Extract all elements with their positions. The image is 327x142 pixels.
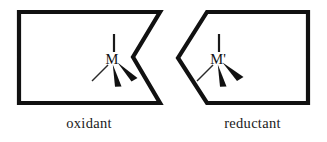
reductant-caption: reductant bbox=[178, 115, 327, 132]
oxidant-caption: oxidant bbox=[0, 115, 178, 132]
figure-root: M M' oxidant reductant bbox=[0, 0, 327, 142]
reductant-atom-label: M' bbox=[210, 51, 226, 67]
oxidant-shape-outline bbox=[19, 12, 160, 103]
reductant-group: M' bbox=[178, 12, 308, 103]
oxidant-group: M bbox=[19, 12, 160, 103]
reductant-shape-outline bbox=[178, 12, 308, 103]
oxidant-atom-label: M bbox=[106, 51, 119, 67]
